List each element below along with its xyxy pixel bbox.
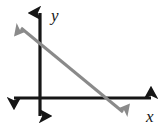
y-axis-label: y [49,6,59,25]
coordinate-plane-svg: y x [0,0,168,129]
x-axis-label: x [145,107,154,126]
background-rect [0,0,168,129]
figure-canvas: y x [0,0,168,129]
